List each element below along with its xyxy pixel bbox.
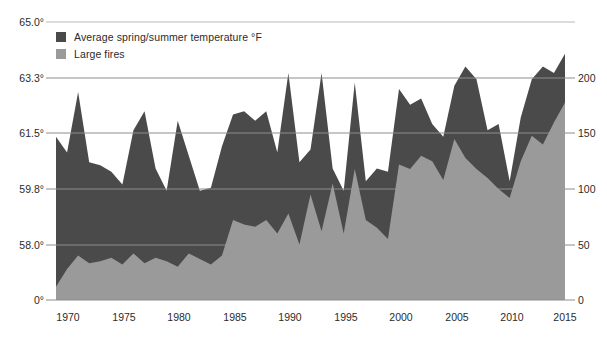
y-axis-right-label-0: 200 — [578, 72, 596, 84]
legend-swatch-temperature — [56, 32, 66, 42]
x-axis-tick-1985: 1985 — [215, 311, 255, 323]
y-axis-left-label-3: 59.8° — [0, 183, 44, 195]
fires-temperature-area-chart: Average spring/summer temperature °F Lar… — [0, 0, 607, 340]
x-axis-tick-1995: 1995 — [326, 311, 366, 323]
x-axis-tick-1980: 1980 — [159, 311, 199, 323]
legend-item-fires: Large fires — [56, 45, 262, 62]
legend-item-temperature: Average spring/summer temperature °F — [56, 28, 262, 45]
x-axis-tick-1975: 1975 — [104, 311, 144, 323]
legend-label-temperature: Average spring/summer temperature °F — [74, 31, 262, 43]
x-axis-tick-1990: 1990 — [270, 311, 310, 323]
y-axis-left-label-0: 65.0° — [0, 16, 44, 28]
x-axis-tick-2010: 2010 — [492, 311, 532, 323]
y-axis-left-label-1: 63.3° — [0, 72, 44, 84]
chart-legend: Average spring/summer temperature °F Lar… — [56, 28, 262, 62]
y-axis-left-label-4: 58.0° — [0, 239, 44, 251]
legend-label-fires: Large fires — [74, 48, 125, 60]
y-axis-right-label-2: 100 — [578, 183, 596, 195]
y-axis-right-label-1: 150 — [578, 127, 596, 139]
x-axis-tick-2015: 2015 — [545, 311, 585, 323]
y-axis-right-label-3: 50 — [578, 239, 590, 251]
y-axis-left-label-5: 0° — [0, 294, 44, 306]
y-axis-right-label-4: 0 — [578, 294, 584, 306]
x-axis-tick-2005: 2005 — [437, 311, 477, 323]
x-axis-tick-2000: 2000 — [381, 311, 421, 323]
x-axis-tick-1970: 1970 — [48, 311, 88, 323]
legend-swatch-fires — [56, 49, 66, 59]
y-axis-left-label-2: 61.5° — [0, 127, 44, 139]
